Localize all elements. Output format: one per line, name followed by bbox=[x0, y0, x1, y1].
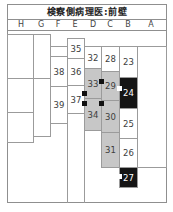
cell-h-lower bbox=[7, 112, 34, 143]
specimen-marker-24 bbox=[117, 86, 122, 91]
cell-26: 26 bbox=[119, 138, 138, 168]
pathology-segment-chart: 検察側病理医:前壁 H G F E D C B A 38 39 35 36 37… bbox=[0, 0, 173, 212]
cell-39: 39 bbox=[50, 86, 68, 124]
specimen-marker-30 bbox=[99, 101, 104, 106]
cell-31: 31 bbox=[101, 132, 120, 168]
specimen-marker-33 bbox=[82, 91, 87, 96]
column-header-g: G bbox=[34, 20, 48, 29]
cell-g-upper bbox=[33, 34, 51, 79]
column-header-c: C bbox=[103, 20, 117, 29]
cell-g-lower bbox=[33, 78, 51, 137]
cell-h-middle bbox=[7, 78, 34, 113]
specimen-marker-34 bbox=[82, 101, 87, 106]
column-header-d: D bbox=[86, 20, 100, 29]
column-e-open-corridor bbox=[67, 113, 85, 203]
column-header-a: A bbox=[144, 20, 158, 29]
specimen-marker-27 bbox=[117, 174, 122, 179]
cell-23: 23 bbox=[119, 46, 138, 78]
figure-title: 検察側病理医:前壁 bbox=[7, 5, 167, 18]
column-header-e: E bbox=[68, 20, 82, 29]
cell-25: 25 bbox=[119, 108, 138, 139]
cell-37: 37 bbox=[67, 85, 85, 114]
column-header-h: H bbox=[14, 20, 28, 29]
specimen-marker-29 bbox=[99, 79, 104, 84]
cell-a-tall bbox=[137, 46, 167, 168]
cell-32: 32 bbox=[84, 46, 102, 69]
cell-36: 36 bbox=[67, 58, 85, 86]
cell-24: 24 bbox=[119, 77, 138, 109]
cell-28: 28 bbox=[101, 46, 120, 72]
cell-38: 38 bbox=[50, 56, 68, 87]
header-bottom-rule bbox=[7, 30, 167, 31]
cell-h-upper bbox=[7, 34, 34, 79]
column-header-f: F bbox=[51, 20, 65, 29]
cell-35: 35 bbox=[67, 38, 85, 59]
column-header-b: B bbox=[121, 20, 135, 29]
